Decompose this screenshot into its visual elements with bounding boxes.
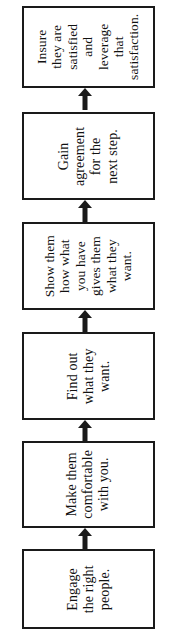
process-step-gain-agreement[interactable]: Gain agreement for the next step. xyxy=(22,112,155,200)
process-step-make-them-comfortable[interactable]: Make them comfortable with you. xyxy=(22,441,155,528)
process-step-label: Engage the right people. xyxy=(64,565,113,613)
process-flow-diagram: Insure they are satisfied and leverage t… xyxy=(0,0,169,632)
connector-arrow-gain-to-insure xyxy=(0,88,169,110)
process-step-engage-right-people[interactable]: Engage the right people. xyxy=(22,549,155,629)
arrow-up-icon xyxy=(77,310,93,332)
connector-arrow-engage-to-comfortable xyxy=(0,528,169,550)
process-step-insure-satisfied[interactable]: Insure they are satisfied and leverage t… xyxy=(22,6,155,88)
connector-arrow-find-to-show xyxy=(0,310,169,332)
process-step-find-out-what-they-want[interactable]: Find out what they want. xyxy=(22,332,155,420)
process-step-label: Find out what they want. xyxy=(64,348,113,404)
process-step-show-them-how[interactable]: Show them how what you have gives them w… xyxy=(22,222,155,310)
process-step-label: Show them how what you have gives them w… xyxy=(42,235,134,297)
arrow-up-icon xyxy=(77,528,93,550)
arrow-up-icon xyxy=(77,420,93,442)
arrow-up-icon xyxy=(77,200,93,222)
connector-arrow-show-to-gain xyxy=(0,200,169,222)
process-step-label: Insure they are satisfied and leverage t… xyxy=(35,14,143,80)
arrow-up-icon xyxy=(77,88,93,110)
process-step-label: Gain agreement for the next step. xyxy=(56,126,121,185)
process-step-label: Make them comfortable with you. xyxy=(64,450,113,519)
connector-arrow-comfortable-to-find xyxy=(0,420,169,442)
